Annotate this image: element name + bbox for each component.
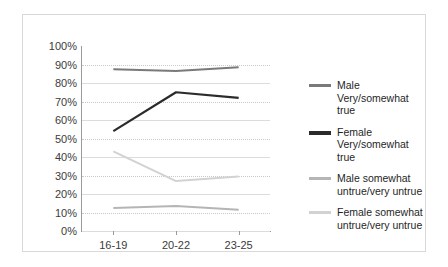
- legend-item[interactable]: Female somewhat untrue/very untrue: [309, 206, 425, 231]
- y-tick-label: 0%: [33, 226, 77, 236]
- y-tick-label: 20%: [33, 189, 77, 199]
- x-tick-label: 23-25: [209, 239, 269, 251]
- series-line: [113, 206, 238, 210]
- y-tick-label: 60%: [33, 115, 77, 125]
- x-tick-mark: [239, 231, 240, 235]
- legend-item[interactable]: Male somewhat untrue/very untrue: [309, 172, 425, 197]
- legend-color-swatch: [309, 177, 331, 180]
- y-tick-label: 80%: [33, 78, 77, 88]
- x-tick-label: 16-19: [83, 239, 143, 251]
- series-lines: [82, 46, 270, 231]
- x-tick-mark: [113, 231, 114, 235]
- y-tick-label: 10%: [33, 208, 77, 218]
- y-axis-tick-labels: 100%90%80%70%60%50%40%30%20%10%0%: [33, 15, 77, 253]
- y-tick-label: 70%: [33, 97, 77, 107]
- legend-item[interactable]: Female Very/somewhat true: [309, 126, 425, 164]
- y-tick-label: 50%: [33, 134, 77, 144]
- legend-label: Male Very/somewhat true: [337, 79, 425, 117]
- x-tick-mark: [176, 231, 177, 235]
- legend-label: Female somewhat untrue/very untrue: [337, 206, 425, 231]
- series-line: [113, 151, 238, 181]
- chart-legend: Male Very/somewhat trueFemale Very/somew…: [309, 79, 425, 240]
- y-tick-label: 40%: [33, 152, 77, 162]
- series-line: [113, 92, 238, 131]
- y-tick-label: 100%: [33, 41, 77, 51]
- legend-item[interactable]: Male Very/somewhat true: [309, 79, 425, 117]
- legend-color-swatch: [309, 211, 331, 214]
- chart-frame: 100%90%80%70%60%50%40%30%20%10%0% 16-192…: [22, 14, 426, 252]
- series-line: [113, 67, 238, 71]
- y-tick-label: 30%: [33, 171, 77, 181]
- plot-wrap: 100%90%80%70%60%50%40%30%20%10%0% 16-192…: [23, 15, 293, 253]
- plot-area: [82, 46, 270, 231]
- x-tick-label: 20-22: [146, 239, 206, 251]
- legend-color-swatch: [309, 131, 331, 135]
- legend-label: Male somewhat untrue/very untrue: [337, 172, 425, 197]
- legend-label: Female Very/somewhat true: [337, 126, 425, 164]
- y-tick-label: 90%: [33, 60, 77, 70]
- legend-color-swatch: [309, 84, 331, 87]
